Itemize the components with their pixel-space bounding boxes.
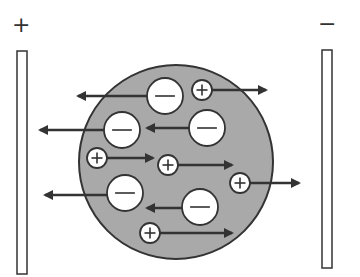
positive-ion: [158, 155, 178, 175]
positive-ion: [140, 223, 160, 243]
electrophoresis-diagram: [0, 0, 360, 277]
negative-ion: [104, 112, 140, 148]
negative-ion: [189, 110, 225, 146]
positive-ion: [87, 148, 107, 168]
negative-ion: [182, 189, 218, 225]
negative-ion: [107, 175, 143, 211]
positive-ion: [230, 173, 250, 193]
anode-plate: [17, 51, 27, 274]
cathode-sign-label: −: [318, 13, 336, 35]
positive-ion: [192, 80, 212, 100]
anode-sign-label: +: [12, 14, 30, 36]
negative-ion: [147, 78, 183, 114]
cathode-plate: [322, 50, 332, 268]
